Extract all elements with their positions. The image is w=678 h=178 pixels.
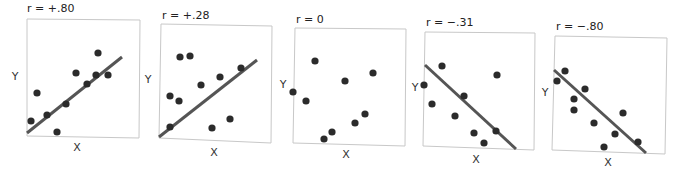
plot-frame (423, 32, 535, 150)
data-point (289, 88, 296, 95)
correlation-label: r = −.80 (556, 20, 603, 33)
data-point (328, 128, 335, 135)
data-point (438, 62, 445, 69)
data-point (175, 97, 182, 104)
data-point (104, 71, 111, 78)
x-axis-label: X (472, 153, 480, 166)
plot-frame (293, 28, 406, 146)
data-point (590, 119, 597, 126)
data-point (428, 100, 435, 107)
data-point (570, 95, 577, 102)
scatterplot-panel-r-minus-80: r = −.80 Y X (541, 20, 667, 169)
data-point (53, 128, 60, 135)
data-point (341, 77, 348, 84)
correlation-label: r = −.31 (426, 16, 473, 29)
data-point (451, 112, 458, 119)
correlation-label: r = +.28 (162, 9, 209, 22)
data-point (197, 81, 204, 88)
data-point (92, 71, 99, 78)
scatterplot-panel-r-plus-28: r = +.28 Y X (144, 9, 272, 159)
x-axis-label: X (604, 156, 612, 169)
data-point (581, 85, 588, 92)
correlation-scatterplots-figure: r = +.80 Y X r = +.28 Y X r = 0 Y X r = … (0, 0, 678, 178)
scatterplot-panel-r-minus-31: r = −.31 Y X (411, 16, 535, 166)
data-point (176, 53, 183, 60)
data-point (320, 135, 327, 142)
y-axis-label: Y (411, 81, 419, 94)
data-point (361, 110, 368, 117)
data-point (72, 69, 79, 76)
data-point (186, 52, 193, 59)
data-point (480, 139, 487, 146)
y-axis-label: Y (11, 70, 19, 83)
data-point (27, 117, 34, 124)
data-point (460, 92, 467, 99)
data-point (43, 111, 50, 118)
x-axis-label: X (73, 141, 81, 154)
data-point (420, 81, 427, 88)
data-point (492, 127, 499, 134)
x-axis-label: X (342, 148, 350, 161)
data-point (302, 97, 309, 104)
data-point (94, 49, 101, 56)
data-point (33, 89, 40, 96)
correlation-label: r = +.80 (27, 2, 74, 15)
scatterplot-panel-r-zero: r = 0 Y X (279, 13, 406, 161)
data-point (351, 119, 358, 126)
data-point (634, 138, 641, 145)
data-point (311, 57, 318, 64)
data-point (226, 115, 233, 122)
data-point (237, 64, 244, 71)
data-point (553, 77, 560, 84)
data-point (216, 73, 223, 80)
scatterplot-panel-r-plus-80: r = +.80 Y X (11, 2, 140, 154)
data-point (493, 71, 500, 78)
data-point (166, 123, 173, 130)
data-point (208, 124, 215, 131)
data-point (600, 143, 607, 150)
y-axis-label: Y (279, 78, 287, 91)
data-point (166, 92, 173, 99)
data-point (369, 69, 376, 76)
data-point (611, 130, 618, 137)
data-point (619, 109, 626, 116)
y-axis-label: Y (144, 73, 152, 86)
y-axis-label: Y (541, 86, 549, 99)
data-point (83, 80, 90, 87)
data-point (561, 67, 568, 74)
data-point (570, 106, 577, 113)
data-point (470, 129, 477, 136)
correlation-label: r = 0 (296, 13, 324, 26)
x-axis-label: X (210, 146, 218, 159)
data-point (62, 100, 69, 107)
plot-frame (552, 36, 667, 154)
